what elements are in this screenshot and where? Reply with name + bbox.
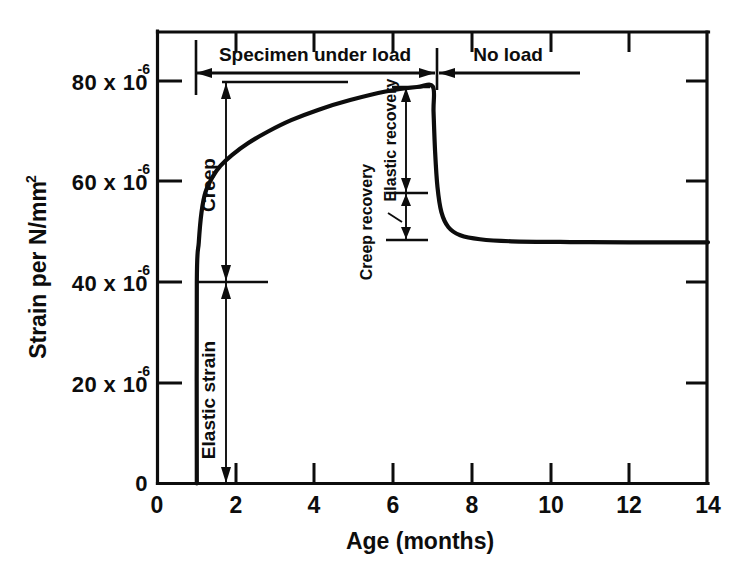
elastic-strain-label: Elastic strain [198,341,219,459]
y-axis-ticks [157,81,182,383]
y-tick-exp-20: -6 [138,363,151,379]
no-load-left-arrowhead [439,68,455,78]
x-tick-label-10: 10 [538,492,564,518]
no-load-label: No load [473,44,543,65]
chart-svg: 80 x 10 -6 60 x 10 -6 40 x 10 -6 20 x 10… [0,0,737,564]
x-tick-label-4: 4 [308,492,321,518]
x-tick-label-12: 12 [616,492,642,518]
y-tick-exp-60: -6 [138,161,151,177]
annotation-elastic-strain: Elastic strain [198,282,268,483]
elastic-recovery-label: Elastic recovery [382,79,399,202]
x-tick-label-0: 0 [151,492,164,518]
creep-recovery-leader-line [388,213,402,222]
creep-recovery-down-arrowhead [401,227,411,239]
creep-strain-chart-figure: 80 x 10 -6 60 x 10 -6 40 x 10 -6 20 x 10… [0,0,737,564]
elastic-strain-up-arrowhead [221,283,231,299]
creep-up-arrowhead [221,83,231,99]
y-tick-exp-80: -6 [138,61,151,77]
creep-recovery-up-arrowhead [401,194,411,206]
y-axis-title-group: Strain per N/mm 2 [23,175,51,359]
y-axis-ticks-right [686,81,707,383]
y-tick-exp-40: -6 [138,262,151,278]
load-span-left-arrowhead [196,68,212,78]
creep-recovery-label: Creep recovery [358,164,375,281]
x-tick-label-8: 8 [466,492,479,518]
x-tick-label-2: 2 [230,492,243,518]
annotation-elastic-recovery: Elastic recovery [382,79,430,202]
x-axis-ticks [236,463,629,484]
x-tick-labels: 0 2 4 6 8 10 12 14 [151,492,721,518]
y-tick-labels: 80 x 10 -6 60 x 10 -6 40 x 10 -6 20 x 10… [72,61,150,496]
y-axis-title: Strain per N/mm [25,181,51,359]
elastic-recovery-down-arrowhead [401,178,411,192]
x-axis-title-group: Age (months) [346,528,494,554]
x-tick-label-14: 14 [695,492,721,518]
data-series-strain [197,85,708,484]
creep-down-arrowhead [221,265,231,281]
elastic-strain-down-arrowhead [221,467,231,483]
specimen-under-load-label: Specimen under load [219,44,411,65]
load-span-right-arrowhead [419,68,435,78]
x-tick-label-6: 6 [387,492,400,518]
y-axis-title-exponent: 2 [23,175,39,183]
strain-curve-path [197,85,708,484]
annotation-creep: Creep [198,82,348,282]
x-axis-title: Age (months) [346,528,494,554]
annotation-no-load: No load [437,44,580,90]
y-tick-label-0: 0 [135,471,148,496]
